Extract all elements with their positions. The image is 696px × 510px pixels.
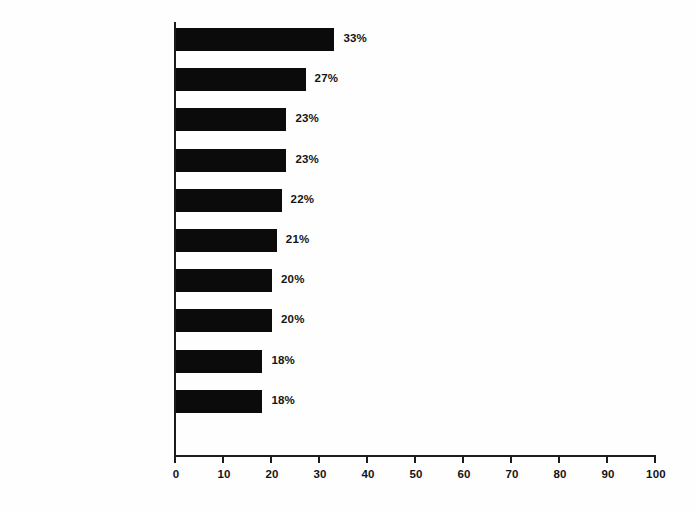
bar-value-label: 22% bbox=[291, 193, 315, 205]
bar-value-label: 27% bbox=[315, 72, 339, 84]
x-axis-tick bbox=[462, 455, 464, 463]
x-axis-tick bbox=[558, 455, 560, 463]
bar bbox=[176, 149, 286, 172]
x-axis-tick-label: 30 bbox=[300, 468, 340, 480]
x-axis-tick-label: 70 bbox=[492, 468, 532, 480]
bar-chart: Violence33%Problem alcohol use27%Antisoc… bbox=[0, 0, 696, 510]
x-axis-tick-label: 90 bbox=[588, 468, 628, 480]
x-axis-tick-label: 60 bbox=[444, 468, 484, 480]
x-axis-tick bbox=[174, 455, 176, 463]
bar bbox=[176, 108, 286, 131]
x-axis-tick-label: 20 bbox=[252, 468, 292, 480]
x-axis-tick bbox=[510, 455, 512, 463]
x-axis-tick-label: 0 bbox=[156, 468, 196, 480]
bar-value-label: 23% bbox=[295, 153, 319, 165]
bar bbox=[176, 229, 277, 252]
x-axis-tick bbox=[222, 455, 224, 463]
bar bbox=[176, 68, 306, 91]
bar bbox=[176, 390, 262, 413]
bar-value-label: 21% bbox=[286, 233, 310, 245]
x-axis-tick bbox=[606, 455, 608, 463]
bar bbox=[176, 309, 272, 332]
x-axis-tick-label: 50 bbox=[396, 468, 436, 480]
bar-value-label: 20% bbox=[281, 273, 305, 285]
bar bbox=[176, 269, 272, 292]
bar-value-label: 18% bbox=[271, 354, 295, 366]
x-axis-tick bbox=[366, 455, 368, 463]
bar-value-label: 18% bbox=[271, 394, 295, 406]
bar-value-label: 20% bbox=[281, 313, 305, 325]
bar-value-label: 23% bbox=[295, 112, 319, 124]
x-axis-tick-label: 40 bbox=[348, 468, 388, 480]
x-axis-tick bbox=[654, 455, 656, 463]
x-axis-tick bbox=[270, 455, 272, 463]
x-axis-tick-label: 10 bbox=[204, 468, 244, 480]
x-axis-tick-label: 80 bbox=[540, 468, 580, 480]
plot-area: Violence33%Problem alcohol use27%Antisoc… bbox=[0, 0, 696, 510]
x-axis-tick bbox=[414, 455, 416, 463]
bar bbox=[176, 28, 334, 51]
x-axis-tick-label: 100 bbox=[636, 468, 676, 480]
bar bbox=[176, 189, 282, 212]
bar bbox=[176, 350, 262, 373]
x-axis-tick bbox=[318, 455, 320, 463]
bar-value-label: 33% bbox=[343, 32, 367, 44]
